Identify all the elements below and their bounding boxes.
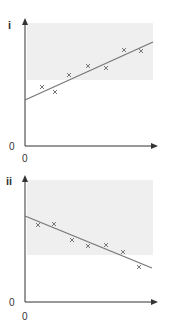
x-axis-arrow-icon [151,143,158,149]
scatter-chart-ii: ii 0 0 [0,165,169,327]
chart-panel-ii: ii 0 0 [0,165,169,327]
shaded-band [27,180,153,255]
panel-label: i [8,19,11,31]
x-origin-label: 0 [22,153,28,164]
y-origin-label: 0 [9,141,15,152]
shaded-band [27,23,153,80]
scatter-chart-i: i 0 0 [0,0,169,165]
x-axis-arrow-icon [151,299,158,305]
chart-panel-i: i 0 0 [0,0,169,165]
panel-label: ii [6,175,12,187]
y-axis-arrow-icon [22,18,28,25]
x-origin-label: 0 [22,311,28,322]
y-axis-arrow-icon [22,175,28,182]
y-origin-label: 0 [9,297,15,308]
